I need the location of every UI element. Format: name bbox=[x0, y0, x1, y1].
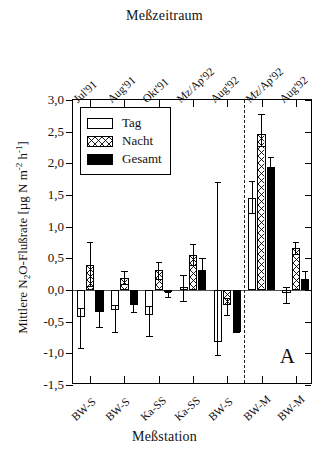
error-cap-lower bbox=[215, 355, 221, 356]
bottom-axis-label-4: BW-S bbox=[206, 395, 235, 423]
y-axis-tick bbox=[66, 227, 73, 228]
legend-label: Gesamt bbox=[122, 151, 162, 167]
legend-item-gesamt: Gesamt bbox=[87, 151, 162, 167]
y-axis-tick bbox=[66, 163, 73, 164]
error-bar bbox=[193, 244, 194, 266]
y-axis-tick-right bbox=[305, 385, 311, 386]
y-axis-tick-right bbox=[305, 258, 311, 259]
error-cap-lower bbox=[258, 146, 264, 147]
y-axis-tick-label: -1,0 bbox=[43, 345, 64, 361]
bottom-axis-label-1: BW-S bbox=[103, 395, 132, 423]
bar-gesamt-bw-m-6 bbox=[301, 279, 309, 290]
error-cap-upper bbox=[249, 181, 255, 182]
error-bar bbox=[286, 287, 287, 303]
error-cap-upper bbox=[78, 308, 84, 309]
y-axis-tick bbox=[66, 322, 73, 323]
error-cap-lower bbox=[146, 336, 152, 337]
y-axis-tick-label: 2,0 bbox=[48, 155, 64, 171]
error-cap-upper bbox=[233, 317, 239, 318]
legend: TagNachtGesamt bbox=[80, 107, 171, 175]
error-cap-upper bbox=[156, 262, 162, 263]
error-cap-lower bbox=[180, 301, 186, 302]
error-bar bbox=[115, 305, 116, 333]
bottom-axis-label-2: Ka-SS bbox=[138, 394, 168, 423]
y-axis-tick-label: -1,5 bbox=[43, 377, 64, 393]
bar-gesamt-bw-m-5 bbox=[267, 167, 275, 291]
error-cap-upper bbox=[283, 287, 289, 288]
error-cap-lower bbox=[224, 315, 230, 316]
y-axis-tick-right bbox=[305, 132, 311, 133]
error-cap-lower bbox=[78, 348, 84, 349]
error-bar bbox=[227, 298, 228, 315]
error-bar bbox=[183, 275, 184, 300]
y-axis-title: Mittlere N2O-Flußrate [µg N m-2 h-1] bbox=[14, 102, 33, 372]
top-axis-tick bbox=[193, 100, 194, 107]
error-cap-upper bbox=[215, 182, 221, 183]
bar-gesamt-ka-ss-3 bbox=[198, 270, 206, 290]
y-axis-tick-label: 0,0 bbox=[48, 282, 64, 298]
error-cap-lower bbox=[249, 213, 255, 214]
error-cap-upper bbox=[121, 271, 127, 272]
error-bar bbox=[261, 114, 262, 146]
y-axis-tick-label: -0,5 bbox=[43, 314, 64, 330]
error-cap-lower bbox=[131, 312, 137, 313]
legend-swatch-solid bbox=[87, 154, 113, 165]
top-axis-tick bbox=[159, 100, 160, 107]
error-cap-upper bbox=[165, 292, 171, 293]
x-axis-title: Meßstation bbox=[0, 429, 329, 445]
error-cap-upper bbox=[268, 157, 274, 158]
y-axis-tick bbox=[66, 353, 73, 354]
bottom-axis-tick bbox=[227, 376, 228, 383]
y-axis-tick bbox=[66, 100, 73, 101]
error-bar bbox=[124, 271, 125, 284]
error-bar bbox=[80, 308, 81, 349]
error-cap-upper bbox=[180, 275, 186, 276]
figure-n2o-flux-chart: Meßzeitraum Mittlere N2O-Flußrate [µg N … bbox=[0, 0, 329, 462]
bottom-axis-tick bbox=[193, 376, 194, 383]
error-cap-lower bbox=[293, 254, 299, 255]
error-cap-upper bbox=[96, 296, 102, 297]
legend-swatch-crosshatch bbox=[87, 136, 113, 147]
error-bar bbox=[217, 182, 218, 354]
zero-line bbox=[73, 290, 311, 291]
error-bar bbox=[202, 258, 203, 269]
y-axis-tick-label: 2,5 bbox=[48, 124, 64, 140]
y-axis-tick bbox=[66, 290, 73, 291]
bar-nacht-bw-m-5 bbox=[257, 134, 265, 290]
error-bar bbox=[236, 317, 237, 333]
error-cap-lower bbox=[302, 279, 308, 280]
error-cap-lower bbox=[199, 270, 205, 271]
bottom-axis-tick bbox=[262, 376, 263, 383]
top-axis-tick bbox=[124, 100, 125, 107]
top-axis-tick bbox=[296, 100, 297, 107]
y-axis-tick-right bbox=[305, 195, 311, 196]
y-axis-tick-right bbox=[305, 227, 311, 228]
top-axis-title: Meßzeitraum bbox=[0, 8, 329, 24]
error-cap-lower bbox=[268, 167, 274, 168]
error-bar bbox=[90, 242, 91, 286]
error-cap-lower bbox=[190, 265, 196, 266]
y-axis-tick-right bbox=[305, 163, 311, 164]
error-bar bbox=[270, 157, 271, 167]
top-axis-tick bbox=[90, 100, 91, 107]
bottom-axis-tick bbox=[124, 376, 125, 383]
error-bar bbox=[99, 296, 100, 327]
error-bar bbox=[133, 296, 134, 312]
error-cap-upper bbox=[87, 242, 93, 243]
error-bar bbox=[305, 271, 306, 279]
error-cap-lower bbox=[156, 279, 162, 280]
error-cap-lower bbox=[96, 327, 102, 328]
y-axis-tick-label: 0,5 bbox=[48, 250, 64, 266]
y-axis-tick bbox=[66, 132, 73, 133]
y-axis-tick-right bbox=[305, 322, 311, 323]
bottom-axis-tick bbox=[90, 376, 91, 383]
bottom-axis-tick bbox=[159, 376, 160, 383]
y-axis-tick-label: 1,0 bbox=[48, 219, 64, 235]
error-cap-upper bbox=[224, 298, 230, 299]
error-bar bbox=[158, 262, 159, 280]
error-cap-lower bbox=[233, 332, 239, 333]
error-cap-lower bbox=[283, 303, 289, 304]
y-axis-tick-right bbox=[305, 100, 311, 101]
error-cap-upper bbox=[258, 114, 264, 115]
bottom-axis-label-3: Ka-SS bbox=[172, 394, 202, 423]
